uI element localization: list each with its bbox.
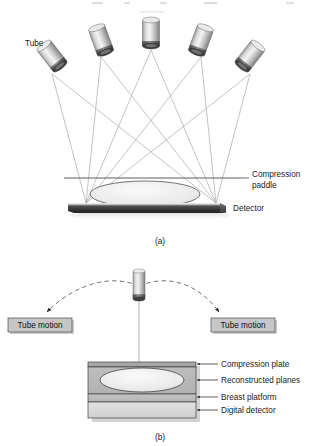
tomosynthesis-diagram: Tube Compression paddle Detector (a)	[0, 0, 320, 446]
ray-line	[86, 50, 151, 203]
box-layer-breast-platform	[88, 394, 196, 402]
xray-tube	[133, 269, 145, 301]
xray-tube-array	[36, 17, 267, 74]
tube-motion-box-right[interactable]: Tube motion	[211, 318, 277, 334]
breast-box-assembly	[88, 362, 200, 422]
xray-tube	[88, 22, 115, 58]
tube-motion-arc	[47, 281, 139, 312]
breast-platform-label: Breast platform	[221, 393, 277, 402]
cropped-caption-remnant	[92, 2, 294, 13]
compression-paddle-label-line1: Compression	[252, 170, 301, 179]
detector-label: Detector	[233, 204, 264, 213]
compression-plate-label: Compression plate	[221, 360, 290, 369]
xray-tube	[188, 22, 215, 58]
xray-tube	[143, 17, 160, 49]
box-layer-digital-detector	[88, 402, 196, 418]
xray-beam-lines	[52, 50, 250, 203]
caption-a: (a)	[155, 236, 165, 246]
reconstructed-planes-label: Reconstructed planes	[221, 376, 300, 385]
ray-line	[216, 74, 250, 203]
digital-detector-label: Digital detector	[221, 406, 276, 415]
ray-line	[52, 74, 86, 203]
tube-motion-right-label: Tube motion	[220, 321, 266, 330]
xray-tube	[234, 38, 267, 74]
tube-motion-arc	[139, 281, 219, 312]
compression-paddle-label-line2: paddle	[252, 181, 277, 190]
tube-motion-box-left[interactable]: Tube motion	[8, 318, 74, 334]
panel-b: Tube motion Tube motion	[8, 269, 300, 442]
caption-b: (b)	[155, 432, 165, 442]
ray-line	[86, 57, 101, 203]
detector-bar	[68, 203, 226, 213]
figure-container: Tube Compression paddle Detector (a)	[0, 0, 320, 446]
breast-ellipse	[100, 368, 184, 392]
tube-label: Tube	[25, 39, 44, 48]
box-label-leaders	[197, 364, 218, 410]
ray-line	[201, 57, 216, 203]
box-layer-compression-plate	[88, 362, 196, 367]
panel-a: Tube Compression paddle Detector (a)	[25, 17, 301, 246]
tube-motion-left-label: Tube motion	[17, 321, 63, 330]
